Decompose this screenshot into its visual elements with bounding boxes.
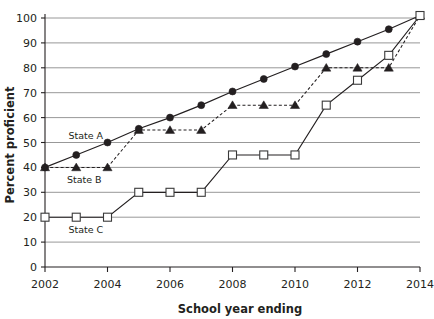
series-line-state-c — [45, 16, 420, 218]
y-tick-label-60: 60 — [23, 112, 37, 125]
series-state-a — [42, 12, 424, 171]
marker-state-c-2009 — [260, 151, 268, 159]
y-tick-label-40: 40 — [23, 161, 37, 174]
y-tick-label-0: 0 — [30, 261, 37, 274]
chart-container: 0102030405060708090100 20022004200620082… — [0, 0, 434, 319]
marker-state-c-2011 — [322, 101, 330, 109]
marker-state-a-2003 — [73, 151, 80, 158]
y-tick-label-20: 20 — [23, 211, 37, 224]
y-tick-label-70: 70 — [23, 87, 37, 100]
marker-state-c-2002 — [41, 213, 49, 221]
marker-state-a-2010 — [292, 63, 299, 70]
x-tick-label-2010: 2010 — [281, 278, 309, 291]
y-axis-ticks: 0102030405060708090100 — [16, 12, 45, 274]
y-tick-label-30: 30 — [23, 186, 37, 199]
marker-state-c-2005 — [135, 188, 143, 196]
y-tick-label-100: 100 — [16, 12, 37, 25]
marker-state-c-2008 — [229, 151, 237, 159]
marker-state-a-2006 — [167, 114, 174, 121]
marker-state-c-2004 — [104, 213, 112, 221]
x-axis-title: School year ending — [178, 302, 302, 316]
marker-state-c-2010 — [291, 151, 299, 159]
marker-state-b-2008 — [228, 101, 237, 109]
marker-state-b-2013 — [384, 64, 393, 72]
marker-state-c-2012 — [354, 76, 362, 84]
annotation-state-c: State C — [68, 224, 103, 235]
marker-state-a-2007 — [198, 102, 205, 109]
x-tick-label-2006: 2006 — [156, 278, 184, 291]
y-tick-label-10: 10 — [23, 236, 37, 249]
marker-state-a-2012 — [354, 38, 361, 45]
y-tick-label-90: 90 — [23, 37, 37, 50]
annotation-state-b: State B — [67, 174, 102, 185]
x-tick-label-2008: 2008 — [219, 278, 247, 291]
marker-state-c-2013 — [385, 51, 393, 59]
x-tick-label-2004: 2004 — [94, 278, 122, 291]
marker-state-a-2013 — [385, 26, 392, 33]
marker-state-c-2014 — [416, 12, 424, 20]
x-tick-label-2012: 2012 — [344, 278, 372, 291]
x-axis-ticks: 2002200420062008201020122014 — [31, 267, 434, 291]
marker-state-a-2011 — [323, 51, 330, 58]
marker-state-c-2006 — [166, 188, 174, 196]
marker-state-a-2004 — [104, 139, 111, 146]
y-tick-label-50: 50 — [23, 137, 37, 150]
marker-state-c-2007 — [197, 188, 205, 196]
x-tick-label-2002: 2002 — [31, 278, 59, 291]
y-axis-title: Percent proficient — [3, 86, 17, 203]
x-tick-label-2014: 2014 — [406, 278, 434, 291]
marker-state-c-2003 — [72, 213, 80, 221]
marker-state-a-2008 — [229, 88, 236, 95]
percent-proficient-line-chart: 0102030405060708090100 20022004200620082… — [0, 0, 434, 319]
y-tick-label-80: 80 — [23, 62, 37, 75]
marker-state-a-2009 — [260, 76, 267, 83]
annotation-state-a: State A — [68, 130, 103, 141]
